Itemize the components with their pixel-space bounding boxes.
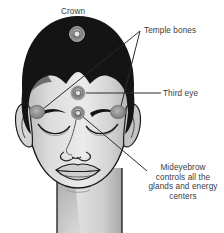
caption-line-1: Mideyebrow: [143, 163, 223, 173]
diagram-page: Crown Temple bones Third eye Mideyebrow …: [0, 0, 224, 233]
marker-third-eye[interactable]: [71, 86, 85, 100]
label-crown: Crown: [61, 7, 85, 17]
caption-line-3: glands and energy: [143, 182, 223, 192]
marker-crown[interactable]: [70, 27, 85, 42]
label-temple-bones: Temple bones: [144, 26, 196, 36]
marker-temple-bone-left[interactable]: [29, 105, 44, 118]
label-third-eye: Third eye: [163, 89, 198, 99]
label-mideyebrow-caption: Mideyebrow controls all the glands and e…: [143, 163, 223, 202]
caption-line-2: controls all the: [143, 173, 223, 183]
caption-line-4: centers: [143, 192, 223, 202]
marker-mideyebrow[interactable]: [71, 106, 84, 119]
marker-temple-bone-right[interactable]: [110, 105, 125, 118]
